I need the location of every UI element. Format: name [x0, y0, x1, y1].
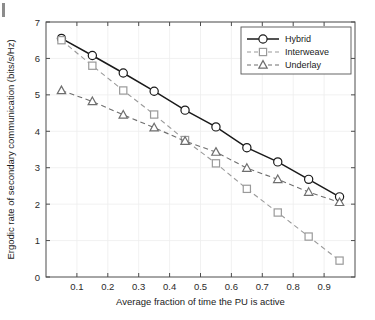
- legend-item-interweave[interactable]: Interweave: [247, 47, 329, 57]
- data-point-hybrid-2: [119, 69, 127, 77]
- data-point-hybrid-4: [181, 106, 189, 114]
- axis-label-layer: Average fraction of time the PU is activ…: [5, 39, 285, 307]
- data-point-underlay-8: [304, 188, 312, 196]
- data-point-underlay-0: [57, 86, 65, 94]
- x-tick-label-0: 0.1: [70, 281, 83, 292]
- x-tick-label-7: 0.8: [287, 281, 300, 292]
- y-tick-label-3: 3: [35, 162, 40, 173]
- data-point-interweave-0: [58, 37, 65, 44]
- x-axis-label: Average fraction of time the PU is activ…: [116, 296, 285, 307]
- data-point-interweave-legend: [259, 48, 266, 55]
- data-point-interweave-7: [274, 209, 281, 216]
- data-point-hybrid-1: [88, 51, 96, 59]
- figure-canvas: 0.10.20.30.40.50.60.70.80.901234567 Aver…: [0, 0, 375, 320]
- data-point-hybrid-7: [274, 158, 282, 166]
- data-point-interweave-3: [151, 111, 158, 118]
- y-tick-label-0: 0: [35, 272, 40, 283]
- data-point-underlay-3: [150, 123, 158, 131]
- y-tick-label-2: 2: [35, 199, 40, 210]
- page-edge-mark: [2, 3, 5, 17]
- data-point-hybrid-3: [150, 87, 158, 95]
- chart-legend[interactable]: HybridInterweaveUnderlay: [241, 27, 351, 74]
- data-point-hybrid-5: [212, 123, 220, 131]
- data-point-interweave-9: [336, 257, 343, 264]
- y-tick-label-1: 1: [35, 235, 40, 246]
- data-point-hybrid-6: [243, 144, 251, 152]
- legend-label-hybrid: Hybrid: [285, 34, 311, 44]
- x-tick-label-8: 0.9: [317, 281, 330, 292]
- data-point-underlay-2: [119, 110, 127, 118]
- data-point-interweave-8: [305, 233, 312, 240]
- data-point-interweave-1: [89, 62, 96, 69]
- legend-label-interweave: Interweave: [285, 47, 329, 57]
- data-point-hybrid-legend: [259, 35, 267, 43]
- data-point-interweave-5: [212, 160, 219, 167]
- y-tick-label-7: 7: [35, 17, 40, 28]
- data-point-hybrid-8: [305, 175, 313, 183]
- x-tick-label-5: 0.6: [225, 281, 238, 292]
- legend-label-underlay: Underlay: [285, 60, 322, 70]
- x-tick-label-2: 0.3: [132, 281, 145, 292]
- x-tick-label-6: 0.7: [256, 281, 269, 292]
- y-tick-label-5: 5: [35, 89, 40, 100]
- x-tick-label-3: 0.4: [163, 281, 176, 292]
- x-tick-label-4: 0.5: [194, 281, 207, 292]
- ergodic-rate-line-chart: 0.10.20.30.40.50.60.70.80.901234567 Aver…: [0, 0, 375, 320]
- data-point-interweave-6: [243, 185, 250, 192]
- y-tick-label-6: 6: [35, 53, 40, 64]
- y-tick-label-4: 4: [35, 126, 40, 137]
- y-axis-label: Ergodic rate of secondary communication …: [5, 39, 16, 259]
- x-tick-label-1: 0.2: [101, 281, 114, 292]
- data-point-interweave-2: [120, 87, 127, 94]
